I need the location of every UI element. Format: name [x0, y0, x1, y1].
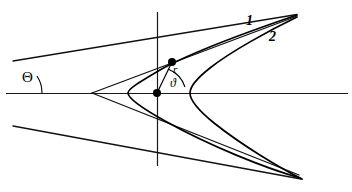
asymptote-incoming-upper	[13, 15, 297, 62]
scattering-angle-label: Θ	[22, 70, 33, 85]
asymptote-secondary-upper	[92, 17, 296, 94]
polar-angle-label: ϑ	[170, 77, 176, 89]
figure-canvas: Θ r ϑ 1 2	[0, 0, 352, 192]
curve-1-label: 1	[246, 14, 253, 28]
focus-point-marker	[153, 89, 161, 97]
radius-label: r	[173, 64, 177, 75]
scattering-angle-arc	[37, 76, 42, 93]
diagram-svg	[0, 0, 352, 192]
curve-2-label: 2	[269, 30, 276, 44]
